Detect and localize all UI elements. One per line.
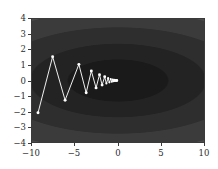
xtick-label: −10 [22, 149, 40, 158]
ytick-label: −2 [11, 108, 26, 117]
ytick-mark [28, 143, 31, 144]
iterate-marker [103, 75, 106, 78]
zigzag-descent-path [32, 19, 204, 142]
ytick-mark [28, 34, 31, 35]
xtick-mark [118, 143, 119, 146]
xtick-mark [161, 143, 162, 146]
ytick-mark [28, 18, 31, 19]
iterate-marker [98, 73, 101, 76]
xtick-label: 10 [199, 149, 210, 158]
iterate-marker [85, 91, 88, 94]
iterate-marker [37, 111, 40, 114]
ytick-label: −3 [11, 123, 26, 132]
ytick-label: 2 [14, 45, 26, 54]
iterate-marker [95, 86, 98, 89]
xtick-mark [74, 143, 75, 146]
iterate-marker [108, 81, 110, 83]
xtick-mark [31, 143, 32, 146]
ytick-mark [28, 81, 31, 82]
iterate-marker [110, 78, 112, 80]
ytick-label: 3 [14, 29, 26, 38]
iterate-marker [90, 69, 93, 72]
figure-canvas: −10 −5 0 5 10 4 3 2 1 0 −1 −2 −3 −4 [0, 0, 218, 169]
ytick-mark [28, 49, 31, 50]
iterate-marker [105, 82, 107, 84]
ytick-label: 1 [14, 61, 26, 70]
ytick-mark [28, 112, 31, 113]
descent-polyline [38, 57, 117, 113]
iterate-marker [101, 84, 104, 87]
ytick-mark [28, 96, 31, 97]
iterate-marker [64, 99, 67, 102]
ytick-label: 0 [14, 76, 26, 85]
plot-area [31, 18, 205, 143]
xtick-label: 0 [115, 149, 120, 158]
iterate-marker [77, 63, 80, 66]
iterate-marker [116, 79, 118, 81]
xtick-label: −5 [68, 149, 81, 158]
iterate-marker [51, 55, 54, 58]
ytick-mark [28, 65, 31, 66]
ytick-label: −1 [11, 92, 26, 101]
xtick-mark [204, 143, 205, 146]
ytick-label: −4 [11, 139, 26, 148]
iterate-marker [107, 77, 109, 79]
ytick-label: 4 [14, 14, 26, 23]
xtick-label: 5 [158, 149, 163, 158]
ytick-mark [28, 127, 31, 128]
